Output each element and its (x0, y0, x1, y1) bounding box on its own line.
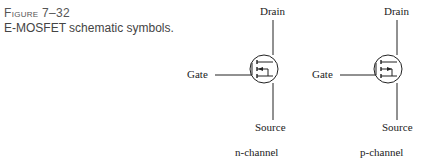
n-channel-symbol (215, 20, 278, 120)
mosfet-symbols-diagram (0, 0, 434, 161)
p-channel-symbol (340, 20, 402, 120)
p-source-label: Source (382, 121, 413, 133)
p-gate-label: Gate (312, 68, 333, 80)
n-drain-label: Drain (260, 5, 285, 17)
substrate-arrow-icon (258, 67, 263, 71)
p-drain-label: Drain (384, 5, 409, 17)
p-channel-caption: p-channel (360, 146, 403, 158)
substrate-arrow-icon (387, 67, 392, 71)
n-gate-label: Gate (187, 68, 208, 80)
n-source-label: Source (255, 121, 286, 133)
n-channel-caption: n-channel (235, 146, 278, 158)
